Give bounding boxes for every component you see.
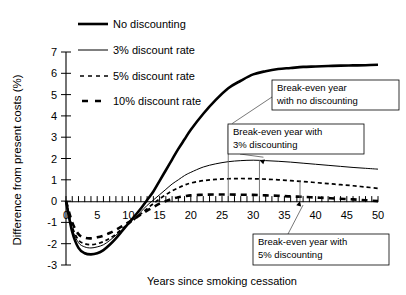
y-tick-label: 2 — [51, 153, 57, 165]
x-tick-label: 40 — [309, 209, 321, 221]
y-tick-label: -3 — [47, 259, 57, 271]
y-tick-group: -3-2-101234567 — [47, 46, 71, 271]
x-tick-group: 05101520253035404550 — [63, 209, 384, 221]
x-axis-label: Years since smoking cessation — [147, 275, 297, 287]
chart-svg: Difference from present costs (%) -3-2-1… — [0, 0, 406, 295]
legend-item-five-percent: 5% discount rate — [80, 70, 195, 82]
legend-item-no-discounting: No discounting — [78, 18, 186, 30]
y-tick-label: 7 — [51, 46, 57, 58]
callout-no-discounting: Break-even year with no discounting — [272, 80, 399, 110]
callout-no-discounting-line2: with no discounting — [276, 95, 358, 106]
x-tick-label: 50 — [372, 209, 384, 221]
y-axis-label: Difference from present costs (%) — [11, 74, 23, 245]
callout-five-percent-line1: Break-even year with — [258, 236, 347, 247]
x-tick-label: 25 — [216, 209, 228, 221]
legend-label-no-discounting: No discounting — [113, 18, 186, 30]
callout-three-percent-line1: Break-even year with — [233, 126, 322, 137]
y-tick-label: 0 — [51, 195, 57, 207]
legend: No discounting 3% discount rate 5% disco… — [78, 18, 201, 107]
y-tick-label: -1 — [47, 216, 57, 228]
x-tick-label: 15 — [153, 209, 165, 221]
annotation-connector — [240, 154, 263, 157]
legend-label-ten-percent: 10% discount rate — [113, 95, 201, 107]
callout-five-percent: Break-even year with 5% discounting — [253, 234, 389, 265]
y-tick-label: 3 — [51, 131, 57, 143]
x-tick-label: 35 — [278, 209, 290, 221]
x-tick-label: 20 — [185, 209, 197, 221]
callout-five-percent-line2: 5% discounting — [258, 249, 322, 260]
y-tick-label: -2 — [47, 238, 57, 250]
figure-container: Difference from present costs (%) -3-2-1… — [0, 0, 406, 295]
y-tick-label: 4 — [51, 110, 57, 122]
y-tick-label: 1 — [51, 174, 57, 186]
annotation-connector — [232, 97, 272, 123]
y-tick-label: 6 — [51, 67, 57, 79]
annotation-leaders — [227, 97, 303, 234]
legend-item-three-percent: 3% discount rate — [78, 44, 195, 56]
callout-three-percent-line2: 3% discounting — [233, 139, 297, 150]
x-tick-label: 5 — [94, 209, 100, 221]
x-tick-label: 30 — [247, 209, 259, 221]
legend-label-three-percent: 3% discount rate — [113, 44, 195, 56]
legend-item-ten-percent: 10% discount rate — [82, 95, 201, 107]
x-tick-label: 45 — [341, 209, 353, 221]
callout-three-percent: Break-even year with 3% discounting — [228, 124, 364, 154]
callout-no-discounting-line1: Break-even year — [277, 82, 347, 93]
y-tick-label: 5 — [51, 89, 57, 101]
legend-label-five-percent: 5% discount rate — [113, 70, 195, 82]
